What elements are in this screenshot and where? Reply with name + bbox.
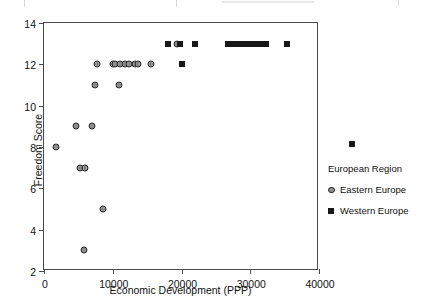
data-point-circle	[100, 206, 107, 213]
y-axis-tick-label: 2	[30, 265, 36, 279]
x-axis-label: Economic Development (PPP)	[43, 284, 318, 296]
legend-entry-western-europe[interactable]: Western Europe	[328, 205, 420, 217]
data-point-circle	[80, 247, 87, 254]
legend-entry-eastern-europe[interactable]: Eastern Europe	[328, 184, 420, 196]
scatter-chart: Freedom Score 24681012140100002000030000…	[0, 0, 421, 300]
y-axis-tick-label: 14	[24, 17, 36, 31]
data-point-circle	[89, 123, 96, 130]
scan-artifact	[24, 0, 25, 7]
x-axis-tick: 20000	[182, 269, 183, 274]
data-point-circle	[93, 61, 100, 68]
y-axis-tick-label: 4	[30, 224, 36, 238]
data-point-square	[177, 41, 183, 47]
legend-entry-label: Eastern Europe	[340, 184, 406, 196]
data-point-square	[192, 41, 198, 47]
legend-entry-label: Western Europe	[340, 205, 408, 217]
legend: European Region Eastern Europe Western E…	[328, 163, 420, 226]
x-axis-tick: 10000	[113, 269, 114, 274]
circle-marker-icon	[328, 187, 340, 194]
y-axis-tick: 12	[39, 64, 44, 65]
data-point-circle	[72, 123, 79, 130]
plot-inner: 2468101214010000200003000040000	[44, 23, 317, 269]
x-axis-tick: 0	[44, 269, 45, 274]
data-point-circle	[91, 82, 98, 89]
data-point-square	[263, 41, 269, 47]
y-axis-tick-label: 6	[30, 182, 36, 196]
legend-title: European Region	[328, 163, 420, 175]
y-axis-tick-label: 12	[24, 58, 36, 72]
data-point-square	[179, 61, 185, 67]
data-point-circle	[134, 61, 141, 68]
data-point-circle	[115, 82, 122, 89]
data-point-circle	[148, 61, 155, 68]
y-axis-tick: 4	[39, 230, 44, 231]
scan-artifact	[222, 1, 314, 3]
y-axis-tick: 6	[39, 188, 44, 189]
data-point-square	[284, 41, 290, 47]
data-point-circle	[81, 164, 88, 171]
y-axis-tick: 10	[39, 106, 44, 107]
square-marker-icon	[328, 208, 340, 214]
data-point-square-outlier	[349, 141, 355, 147]
scan-artifact	[398, 0, 399, 6]
y-axis-tick: 14	[39, 23, 44, 24]
y-axis-tick-label: 10	[24, 100, 36, 114]
plot-area: 2468101214010000200003000040000	[43, 22, 318, 270]
y-axis-tick-label: 8	[30, 141, 36, 155]
y-axis-tick: 8	[39, 147, 44, 148]
scan-artifact	[176, 0, 177, 7]
x-axis-tick: 40000	[319, 269, 320, 274]
data-point-circle	[53, 144, 60, 151]
data-point-square	[165, 41, 171, 47]
x-axis-tick: 30000	[250, 269, 251, 274]
